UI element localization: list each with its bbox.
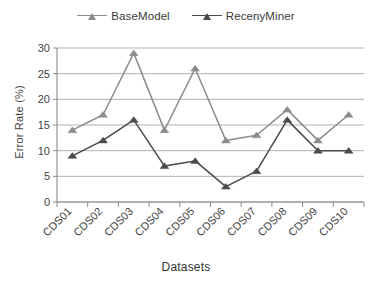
x-axis-title: Datasets xyxy=(0,260,372,274)
x-tick-label: CDS03 xyxy=(102,205,136,239)
y-tick-label: 0 xyxy=(44,196,50,208)
x-tick-label: CDS10 xyxy=(316,205,350,239)
data-point-marker xyxy=(344,112,353,118)
x-tick-label: CDS07 xyxy=(224,205,258,239)
y-tick-label: 5 xyxy=(44,170,50,182)
data-point-marker xyxy=(252,168,261,174)
x-tick-label: CDS01 xyxy=(40,205,74,239)
plot-area: 051015202530CDS01CDS02CDS03CDS04CDS05CDS… xyxy=(0,0,372,287)
svg-text:CDS06: CDS06 xyxy=(194,205,228,239)
data-point-marker xyxy=(160,127,169,133)
svg-text:CDS07: CDS07 xyxy=(224,205,258,239)
y-tick-label: 30 xyxy=(38,42,50,54)
chart-page: BaseModel RecenyMiner 051015202530CDS01C… xyxy=(0,0,372,287)
y-tick-label: 20 xyxy=(38,93,50,105)
x-tick-label: CDS09 xyxy=(286,205,320,239)
svg-text:CDS03: CDS03 xyxy=(102,205,136,239)
svg-text:CDS09: CDS09 xyxy=(286,205,320,239)
svg-text:CDS01: CDS01 xyxy=(40,205,74,239)
svg-text:CDS04: CDS04 xyxy=(132,205,166,239)
svg-text:CDS05: CDS05 xyxy=(163,205,197,239)
svg-text:CDS08: CDS08 xyxy=(255,205,289,239)
x-tick-label: CDS05 xyxy=(163,205,197,239)
x-tick-label: CDS06 xyxy=(194,205,228,239)
series-line xyxy=(72,53,348,140)
data-point-marker xyxy=(191,65,200,71)
data-point-marker xyxy=(129,117,138,123)
svg-text:CDS10: CDS10 xyxy=(316,205,350,239)
x-tick-label: CDS08 xyxy=(255,205,289,239)
y-tick-label: 15 xyxy=(38,119,50,131)
data-point-marker xyxy=(191,158,200,164)
data-point-marker xyxy=(99,112,108,118)
x-tick-label: CDS02 xyxy=(71,205,105,239)
y-tick-label: 25 xyxy=(38,68,50,80)
svg-text:CDS02: CDS02 xyxy=(71,205,105,239)
y-tick-label: 10 xyxy=(38,145,50,157)
data-point-marker xyxy=(129,50,138,56)
chart-svg: 051015202530CDS01CDS02CDS03CDS04CDS05CDS… xyxy=(0,0,372,287)
x-tick-label: CDS04 xyxy=(132,205,166,239)
data-point-marker xyxy=(283,106,292,112)
data-point-marker xyxy=(283,117,292,123)
y-axis-title: Error Rate (%) xyxy=(13,57,25,187)
